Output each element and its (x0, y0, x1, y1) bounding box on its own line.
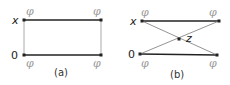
label-x: x (129, 15, 137, 28)
phi-bottom-right: φ (93, 57, 101, 70)
vertex-top-right (100, 19, 103, 22)
vertex-z (178, 38, 181, 41)
label-0: 0 (128, 48, 135, 61)
panel-b: x 0 z φ φ φ φ (b) (128, 6, 221, 80)
phi-bottom-left: φ (26, 57, 34, 70)
phi-bottom-left: φ (141, 57, 149, 70)
label-x: x (11, 14, 19, 27)
phi-top-right: φ (209, 6, 217, 19)
panel-a: x 0 φ φ φ φ (a) (11, 5, 103, 78)
label-z: z (185, 32, 192, 45)
vertex-top-left (141, 20, 144, 23)
phi-bottom-right: φ (209, 57, 217, 70)
label-0: 0 (11, 49, 18, 62)
caption-b: (b) (170, 69, 184, 80)
feynman-diagrams: x 0 φ φ φ φ (a) x 0 z φ φ φ φ (b) (0, 0, 230, 85)
bottom-edge (140, 54, 217, 55)
vertex-bottom-left (139, 53, 142, 56)
phi-top-right: φ (93, 5, 101, 18)
caption-a: (a) (54, 67, 68, 78)
phi-top-left: φ (26, 5, 34, 18)
vertex-top-right (218, 20, 221, 23)
vertex-top-left (23, 19, 26, 22)
phi-top-left: φ (141, 6, 149, 19)
